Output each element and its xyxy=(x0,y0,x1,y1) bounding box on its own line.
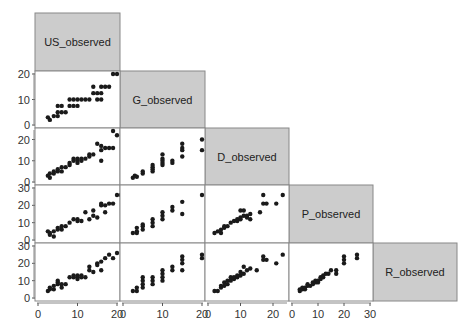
data-point xyxy=(52,284,56,288)
data-point xyxy=(342,254,346,258)
data-point xyxy=(180,200,184,204)
data-point xyxy=(56,167,60,171)
data-point xyxy=(71,156,75,160)
y-tick-label: 30 xyxy=(18,240,30,252)
data-point xyxy=(131,231,135,235)
data-point xyxy=(107,85,111,89)
data-point xyxy=(111,256,115,260)
data-point xyxy=(87,152,91,156)
panel-US_observed-vs-G_observed xyxy=(35,71,120,128)
data-point xyxy=(99,201,103,205)
x-tick-label: 10 xyxy=(156,308,168,320)
data-point xyxy=(111,146,115,150)
data-point xyxy=(91,152,95,156)
data-point xyxy=(131,289,135,293)
data-point xyxy=(67,220,71,224)
data-point xyxy=(48,233,52,237)
data-point xyxy=(60,285,64,289)
data-point xyxy=(75,277,79,281)
data-point xyxy=(87,217,91,221)
data-point xyxy=(52,229,56,233)
y-tick-label: 10 xyxy=(18,217,30,229)
data-point xyxy=(135,174,139,178)
data-point xyxy=(225,224,229,228)
data-point xyxy=(141,169,145,173)
data-point xyxy=(67,161,71,165)
data-point xyxy=(200,252,204,256)
x-tick-label: 0 xyxy=(35,308,41,320)
data-point xyxy=(274,201,278,205)
data-point xyxy=(79,219,83,223)
data-point xyxy=(180,146,184,150)
data-point xyxy=(71,97,75,101)
y-tick-label: 20 xyxy=(18,134,30,146)
data-point xyxy=(60,110,64,114)
data-point xyxy=(63,224,67,228)
data-point xyxy=(71,273,75,277)
data-point xyxy=(48,285,52,289)
data-point xyxy=(83,275,87,279)
data-point xyxy=(95,261,99,265)
data-point xyxy=(60,227,64,231)
data-point xyxy=(255,268,259,272)
data-point xyxy=(63,110,67,114)
data-point xyxy=(60,165,64,169)
x-tick-label: 0 xyxy=(205,308,211,320)
data-point xyxy=(160,210,164,214)
panel-G_observed-vs-D_observed xyxy=(120,128,205,185)
data-point xyxy=(107,146,111,150)
data-point xyxy=(216,289,220,293)
data-point xyxy=(91,91,95,95)
data-point xyxy=(99,159,103,163)
data-point xyxy=(52,234,56,238)
data-point xyxy=(48,171,52,175)
y-tick-label: 10 xyxy=(18,94,30,106)
data-point xyxy=(141,275,145,279)
y-tick-label: 20 xyxy=(18,68,30,80)
data-point xyxy=(160,268,164,272)
data-point xyxy=(56,110,60,114)
data-point xyxy=(83,97,87,101)
data-point xyxy=(63,165,67,169)
data-point xyxy=(180,254,184,258)
data-point xyxy=(48,118,52,122)
panel-P_observed-vs-R_observed xyxy=(289,243,373,301)
data-point xyxy=(71,217,75,221)
data-point xyxy=(200,148,204,152)
data-point xyxy=(248,212,252,216)
data-point xyxy=(180,154,184,158)
data-point xyxy=(264,258,268,262)
data-point xyxy=(87,265,91,269)
data-point xyxy=(99,85,103,89)
panel-US_observed-vs-P_observed xyxy=(35,185,123,243)
data-point xyxy=(75,104,79,108)
data-point xyxy=(111,72,115,76)
data-point xyxy=(264,201,268,205)
data-point xyxy=(79,97,83,101)
data-point xyxy=(160,156,164,160)
data-point xyxy=(107,252,111,256)
data-point xyxy=(115,72,119,76)
data-point xyxy=(91,214,95,218)
data-point xyxy=(115,251,119,255)
data-point xyxy=(103,85,107,89)
data-point xyxy=(79,159,83,163)
data-point xyxy=(83,156,87,160)
data-point xyxy=(95,97,99,101)
x-tick-label: 30 xyxy=(364,308,376,320)
data-point xyxy=(83,210,87,214)
panel-D_observed-vs-R_observed xyxy=(205,243,289,301)
data-point xyxy=(170,205,174,209)
data-point xyxy=(75,219,79,223)
data-point xyxy=(99,91,103,95)
data-point xyxy=(103,210,107,214)
data-point xyxy=(261,193,265,197)
y-axes: 010200102001020300102030 xyxy=(18,68,35,304)
data-point xyxy=(56,226,60,230)
data-point xyxy=(135,285,139,289)
y-tick-label: 0 xyxy=(24,292,30,304)
data-point xyxy=(150,163,154,167)
data-point xyxy=(180,212,184,216)
data-point xyxy=(115,133,119,137)
data-point xyxy=(115,193,119,197)
